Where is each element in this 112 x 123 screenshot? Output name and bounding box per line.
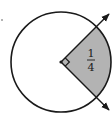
fraction-denominator: 4 xyxy=(88,61,95,74)
fraction-circle-diagram: 1 4 xyxy=(0,0,112,123)
center-point xyxy=(59,60,62,63)
stray-dot xyxy=(1,19,3,21)
fraction-numerator: 1 xyxy=(88,47,95,60)
